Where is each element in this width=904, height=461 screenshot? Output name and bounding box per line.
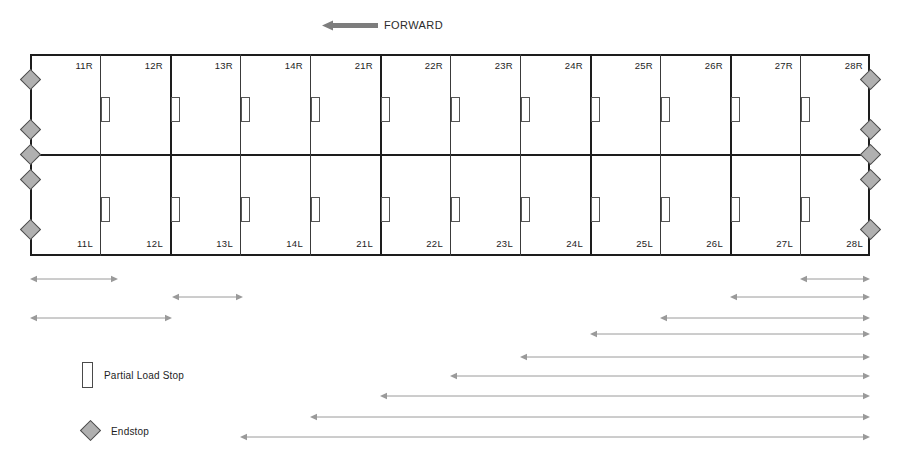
forward-direction-indicator: FORWARD — [322, 17, 443, 33]
dimension-arrow — [30, 315, 172, 321]
dimension-arrow — [520, 354, 870, 360]
partial-load-stop — [801, 97, 810, 122]
cell-label-12r: 12R — [100, 60, 163, 71]
dimension-arrow — [380, 393, 870, 399]
partial-load-stop — [801, 197, 810, 222]
partial-load-stop-icon — [82, 362, 93, 388]
partial-load-stop — [521, 97, 530, 122]
partial-load-stop — [591, 97, 600, 122]
legend-label-endstop: Endstop — [111, 426, 149, 437]
partial-load-stop — [451, 97, 460, 122]
partial-load-stop — [311, 97, 320, 122]
cell-label-27l: 27L — [730, 238, 793, 249]
partial-load-stop — [241, 197, 250, 222]
cell-label-21r: 21R — [310, 60, 373, 71]
partial-load-stop — [591, 197, 600, 222]
cell-label-28l: 28L — [800, 238, 863, 249]
cell-label-26l: 26L — [660, 238, 723, 249]
cell-label-12l: 12L — [100, 238, 163, 249]
column-divider — [100, 54, 101, 256]
column-divider — [380, 54, 382, 256]
dimension-arrow — [730, 294, 870, 300]
partial-load-stop — [731, 97, 740, 122]
endstop-diamond-icon — [82, 422, 100, 440]
cell-label-11r: 11R — [30, 60, 93, 71]
legend: Partial Load Stop Endstop — [82, 358, 302, 448]
legend-item-endstop: Endstop — [82, 414, 302, 448]
cell-label-14l: 14L — [240, 238, 303, 249]
forward-label: FORWARD — [384, 19, 443, 31]
partial-load-stop — [101, 97, 110, 122]
column-divider — [450, 54, 451, 256]
dimension-arrow — [30, 276, 118, 282]
dimension-arrow — [450, 373, 870, 379]
dimension-arrow — [240, 434, 870, 440]
partial-load-stop — [171, 97, 180, 122]
cell-label-21l: 21L — [310, 238, 373, 249]
compartment-grid: 11R12R13R14R21R22R23R24R25R26R27R28R 11L… — [30, 54, 870, 256]
column-divider — [170, 54, 172, 256]
diagram-canvas: FORWARD 11R12R13R14R21R22R23R24R25R26R27… — [0, 0, 904, 461]
partial-load-stop — [521, 197, 530, 222]
partial-load-stop — [381, 97, 390, 122]
cell-label-24l: 24L — [520, 238, 583, 249]
cell-label-23r: 23R — [450, 60, 513, 71]
partial-load-stop — [311, 197, 320, 222]
dimension-arrow — [590, 331, 870, 337]
partial-load-stop — [101, 197, 110, 222]
column-divider — [660, 54, 661, 256]
cell-label-13l: 13L — [170, 238, 233, 249]
partial-load-stop — [381, 197, 390, 222]
arrow-left-thick-icon — [322, 20, 378, 31]
cell-label-14r: 14R — [240, 60, 303, 71]
column-divider — [240, 54, 241, 256]
column-divider — [310, 54, 311, 256]
cell-label-28r: 28R — [800, 60, 863, 71]
partial-load-stop — [661, 97, 670, 122]
cell-label-22r: 22R — [380, 60, 443, 71]
dimension-arrow — [800, 276, 870, 282]
cell-label-22l: 22L — [380, 238, 443, 249]
cell-label-25l: 25L — [590, 238, 653, 249]
column-divider — [800, 54, 801, 256]
cell-label-13r: 13R — [170, 60, 233, 71]
partial-load-stop — [661, 197, 670, 222]
cell-label-26r: 26R — [660, 60, 723, 71]
partial-load-stop — [241, 97, 250, 122]
cell-label-23l: 23L — [450, 238, 513, 249]
column-divider — [730, 54, 732, 256]
column-divider — [590, 54, 592, 256]
partial-load-stop — [451, 197, 460, 222]
cell-label-27r: 27R — [730, 60, 793, 71]
dimension-arrow — [660, 315, 870, 321]
cell-label-25r: 25R — [590, 60, 653, 71]
legend-label-partial-load-stop: Partial Load Stop — [104, 370, 184, 381]
dimension-arrow — [310, 414, 870, 420]
cell-label-24r: 24R — [520, 60, 583, 71]
partial-load-stop — [731, 197, 740, 222]
column-divider — [520, 54, 521, 256]
cell-label-11l: 11L — [30, 238, 93, 249]
partial-load-stop — [171, 197, 180, 222]
dimension-arrow — [172, 294, 243, 300]
legend-item-partial-load-stop: Partial Load Stop — [82, 358, 302, 392]
